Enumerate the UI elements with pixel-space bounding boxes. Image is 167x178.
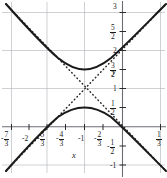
x-axis-label: x [72, 150, 76, 160]
upper-branch-path [6, 4, 166, 70]
ytick-num: 2 [113, 46, 117, 55]
xtick-label: -23 [94, 131, 102, 147]
ytick-label: 52 [110, 24, 116, 40]
xtick-num: 1 [81, 134, 85, 143]
ytick-label: -1 [110, 161, 116, 170]
xtick-label: -43 [56, 131, 64, 147]
xtick-label: -1 [78, 134, 84, 143]
ytick-den: 2 [110, 33, 116, 41]
hyperbola-branches [6, 4, 166, 171]
ytick-num: 1 [113, 161, 117, 170]
xtick-den: 3 [59, 140, 65, 148]
xtick-den: 3 [97, 140, 103, 148]
ytick-label: 3 [113, 2, 117, 11]
xtick-label: -73 [1, 131, 9, 147]
ytick-label: -12 [107, 139, 115, 155]
xtick-label: -53 [37, 131, 45, 147]
ytick-num: 3 [113, 2, 117, 11]
ytick-den: 2 [110, 148, 116, 156]
hyperbola-figure: -73 -2 -53 -43 -1 -23 13 3 52 2 32 1 12 … [0, 0, 167, 178]
graph-canvas [0, 0, 167, 178]
xtick-num: 2 [25, 134, 29, 143]
y-axis-label: y [112, 66, 116, 76]
ytick-label: 2 [113, 46, 117, 55]
ytick-den: 2 [110, 109, 116, 117]
xtick-den: 3 [40, 140, 46, 148]
xtick-den: 3 [156, 140, 162, 148]
ytick-num: 1 [113, 84, 117, 93]
ytick-label: 1 [113, 84, 117, 93]
ytick-label: 12 [110, 100, 116, 116]
xtick-label: -2 [22, 134, 28, 143]
xtick-den: 3 [4, 140, 10, 148]
lower-branch-path [6, 108, 166, 172]
xtick-label: 13 [156, 131, 162, 147]
